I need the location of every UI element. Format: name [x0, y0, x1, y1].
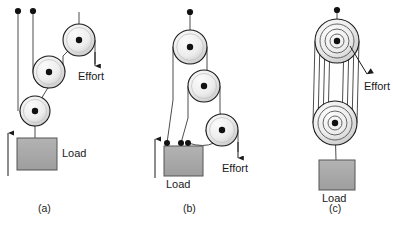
- anchor-dot: [334, 7, 340, 13]
- pulley-block-bottom: [313, 101, 357, 145]
- pulley-systems-figure: Load Effort (a): [0, 0, 393, 230]
- rope-strand-8: [357, 41, 359, 123]
- anchor-dot-right: [30, 8, 36, 14]
- pulley-bottom: [206, 114, 238, 146]
- pulley-middle: [33, 56, 65, 88]
- rope-top-left-to-load: [167, 100, 173, 143]
- panel-a-caption: (a): [38, 202, 51, 214]
- load-attachment-dot-1: [164, 140, 170, 146]
- pulley-block-top-axle: [334, 38, 340, 44]
- effort-label: Effort: [364, 80, 390, 92]
- pulley-bottom-axle: [32, 108, 38, 114]
- pulley-block-top: [315, 19, 359, 63]
- load-label: Load: [166, 178, 190, 190]
- anchor-dot-left: [15, 8, 21, 14]
- rope-strand-1: [313, 41, 315, 123]
- load-attachment-dot-2: [178, 140, 184, 146]
- rope-middle-left-to-load: [181, 118, 188, 143]
- load-attachment-dot-3: [185, 140, 191, 146]
- anchor-dot: [187, 9, 193, 15]
- load-block: [17, 138, 57, 170]
- load-block: [164, 146, 203, 176]
- pulley-middle-axle: [46, 69, 52, 75]
- pulley-middle: [188, 70, 220, 102]
- panel-b: Load Effort (b): [155, 9, 248, 214]
- load-block: [319, 160, 355, 190]
- panel-a: Load Effort (a): [8, 8, 104, 214]
- pulley-diagram-canvas: Load Effort (a): [0, 0, 393, 230]
- effort-label: Effort: [222, 162, 248, 174]
- panel-c-caption: (c): [329, 202, 341, 214]
- pulley-top: [173, 30, 207, 64]
- pulley-top: [63, 24, 95, 56]
- pulley-block-bottom-axle: [332, 120, 338, 126]
- load-label: Load: [62, 147, 86, 159]
- pulley-bottom-axle: [219, 127, 225, 133]
- pulley-top-axle: [76, 37, 82, 43]
- panel-b-caption: (b): [183, 202, 196, 214]
- panel-c: Effort Load (c): [313, 7, 390, 214]
- pulley-bottom: [20, 96, 50, 126]
- effort-label: Effort: [78, 70, 104, 82]
- pulley-middle-axle: [201, 83, 207, 89]
- pulley-top-axle: [187, 44, 193, 50]
